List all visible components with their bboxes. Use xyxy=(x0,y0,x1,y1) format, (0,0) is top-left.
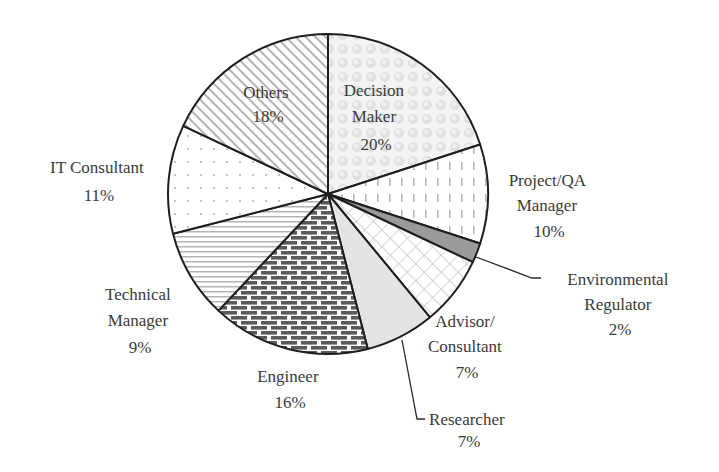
leader-line-environmental-regulator xyxy=(476,257,541,278)
pie-slices xyxy=(168,34,488,354)
leader-line-researcher xyxy=(402,340,425,419)
label-project-qa-manager: Project/QA Manager 10% xyxy=(509,171,590,241)
pie-chart-canvas: Decision Maker 20% Project/QA Manager 10… xyxy=(0,0,719,472)
pie-chart: Decision Maker 20% Project/QA Manager 10… xyxy=(0,0,719,472)
label-researcher: Researcher 7% xyxy=(429,410,509,451)
label-advisor-consultant: Advisor/ Consultant 7% xyxy=(428,312,506,382)
label-environmental-regulator: Environmental Regulator 2% xyxy=(567,270,672,339)
label-it-consultant: IT Consultant 11% xyxy=(50,158,148,205)
label-technical-manager: Technical Manager 9% xyxy=(105,285,175,357)
label-engineer: Engineer 16% xyxy=(257,367,323,412)
